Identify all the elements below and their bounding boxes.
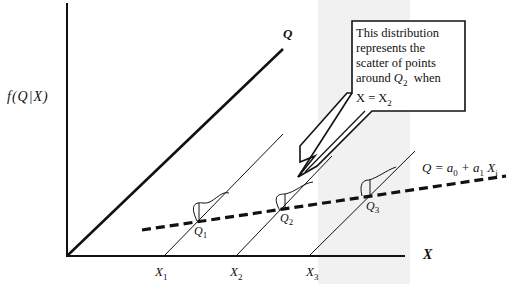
regression-equation: Q = a0 + a1 Xi [422, 160, 498, 178]
distribution-curve-q3 [361, 167, 396, 196]
x-axis-label: X [423, 247, 432, 263]
y-axis-label: f(Q|X) [7, 89, 49, 105]
point-q1: Q1 [194, 224, 207, 240]
x1-line [164, 134, 283, 256]
tick-x3: X3 [306, 264, 318, 282]
point-q3: Q3 [366, 199, 379, 215]
callout-text: This distribution represents the scatter… [356, 26, 464, 110]
callout-line-4: around Q2 when [356, 71, 464, 91]
callout-line-2: represents the [356, 41, 464, 56]
callout-line-5: X = X2 [356, 91, 464, 111]
q-line-label: Q [283, 26, 292, 42]
tick-x1: X1 [155, 264, 167, 282]
tick-x2: X2 [230, 264, 242, 282]
callout-line-1: This distribution [356, 26, 464, 41]
x2-line [236, 156, 332, 256]
callout-line-3: scatter of points [356, 56, 464, 71]
point-q2: Q2 [280, 211, 293, 227]
